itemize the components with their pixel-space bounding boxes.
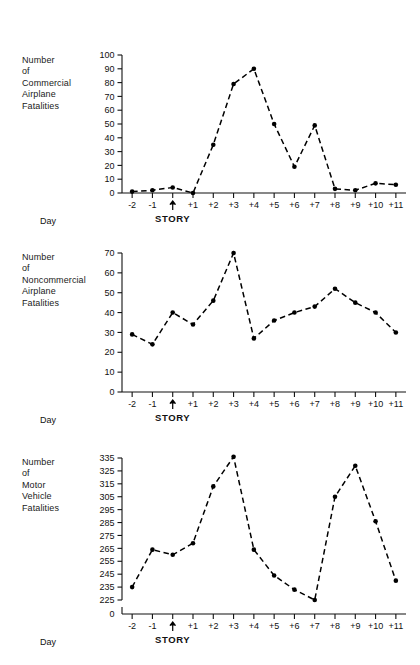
data-point-marker <box>312 123 317 128</box>
x-tick-label: -1 <box>148 621 156 631</box>
data-point-marker <box>231 251 236 256</box>
x-tick-label: +1 <box>188 200 198 210</box>
x-tick-label: +5 <box>269 399 279 409</box>
y-tick-label: 325 <box>99 466 114 476</box>
x-tick-label: +9 <box>350 399 360 409</box>
x-tick-label: +3 <box>228 200 238 210</box>
x-tick-label: +8 <box>330 399 340 409</box>
data-point-marker <box>191 191 196 196</box>
y-tick-label: 70 <box>104 92 114 102</box>
data-point-marker <box>292 164 297 169</box>
x-tick-label: +2 <box>208 200 218 210</box>
y-tick-label: 70 <box>104 248 114 258</box>
data-point-marker <box>272 122 277 127</box>
x-tick-label: +1 <box>188 621 198 631</box>
y-tick-label: 255 <box>99 556 114 566</box>
x-tick-label: +11 <box>389 399 404 409</box>
x-tick-label: -1 <box>148 200 156 210</box>
data-point-marker <box>272 318 277 323</box>
y-tick-label: 285 <box>99 518 114 528</box>
data-point-marker <box>333 286 338 291</box>
up-arrow-icon <box>170 622 176 631</box>
data-point-marker <box>150 342 155 347</box>
y-tick-label: 245 <box>99 569 114 579</box>
y-tick-label: 30 <box>104 328 114 338</box>
data-point-marker <box>292 587 297 592</box>
data-point-marker <box>211 298 216 303</box>
x-tick-label: +6 <box>289 621 299 631</box>
x-tick-label: -1 <box>148 399 156 409</box>
y-tick-label: 90 <box>104 64 114 74</box>
data-point-marker <box>252 67 257 72</box>
data-point-marker <box>353 463 358 468</box>
data-point-marker <box>394 578 399 583</box>
up-arrow-icon <box>170 400 176 409</box>
x-tick-label: +7 <box>310 200 320 210</box>
data-point-marker <box>231 454 236 459</box>
x-tick-label: +9 <box>350 621 360 631</box>
y-tick-label: 235 <box>99 582 114 592</box>
data-point-marker <box>191 541 196 546</box>
y-tick-label: 315 <box>99 479 114 489</box>
data-series-line <box>132 69 396 193</box>
data-point-marker <box>333 494 338 499</box>
data-point-marker <box>272 573 277 578</box>
data-point-marker <box>373 310 378 315</box>
x-tick-label: +7 <box>310 399 320 409</box>
chart-panel-motor-vehicle: Number of Motor Vehicle Fatalities 22523… <box>0 440 420 665</box>
x-axis-title: Day <box>40 415 57 425</box>
x-tick-label: +10 <box>368 621 383 631</box>
y-tick-label: 10 <box>104 174 114 184</box>
story-marker-label: STORY <box>155 412 190 423</box>
x-tick-label: +2 <box>208 621 218 631</box>
chart-panel-commercial: Number of Commercial Airplane Fatalities… <box>0 0 420 235</box>
x-tick-label: +3 <box>228 399 238 409</box>
x-tick-label: +4 <box>249 200 259 210</box>
story-marker-label: STORY <box>155 634 190 645</box>
data-point-marker <box>252 547 257 552</box>
x-tick-label: -2 <box>128 399 136 409</box>
data-point-marker <box>211 142 216 147</box>
y-tick-label: 20 <box>104 161 114 171</box>
x-tick-label: -2 <box>128 200 136 210</box>
data-series-line <box>132 253 396 344</box>
y-tick-label: 305 <box>99 492 114 502</box>
data-point-marker <box>170 553 175 558</box>
chart-panel-noncommercial: Number of Noncommercial Airplane Fatalit… <box>0 235 420 440</box>
x-tick-label: +4 <box>249 621 259 631</box>
y-tick-label: 335 <box>99 453 114 463</box>
y-tick-label: 50 <box>104 119 114 129</box>
y-tick-label: 265 <box>99 544 114 554</box>
x-axis-title: Day <box>40 216 57 226</box>
x-tick-label: +6 <box>289 200 299 210</box>
x-tick-label: +2 <box>208 399 218 409</box>
x-tick-label: +11 <box>389 200 404 210</box>
x-tick-label: +7 <box>310 621 320 631</box>
y-tick-label: 0 <box>109 387 114 397</box>
data-point-marker <box>373 519 378 524</box>
x-tick-label: +1 <box>188 399 198 409</box>
y-tick-label: 100 <box>99 50 114 60</box>
data-point-marker <box>211 484 216 489</box>
data-point-marker <box>252 336 257 341</box>
x-tick-label: +5 <box>269 621 279 631</box>
data-point-marker <box>292 310 297 315</box>
data-point-marker <box>130 189 135 194</box>
x-axis-title: Day <box>40 637 57 647</box>
x-tick-label: +4 <box>249 399 259 409</box>
data-point-marker <box>312 598 317 603</box>
x-tick-label: +10 <box>368 399 383 409</box>
data-point-marker <box>394 330 399 335</box>
y-tick-label: 275 <box>99 531 114 541</box>
y-tick-label: 60 <box>104 268 114 278</box>
data-point-marker <box>394 182 399 187</box>
data-point-marker <box>353 300 358 305</box>
up-arrow-icon <box>170 201 176 210</box>
y-tick-label: 295 <box>99 505 114 515</box>
x-tick-label: +5 <box>269 200 279 210</box>
y-tick-label: 0 <box>109 188 114 198</box>
data-point-marker <box>170 185 175 190</box>
data-point-marker <box>333 187 338 192</box>
y-tick-label: 20 <box>104 347 114 357</box>
x-tick-label: +8 <box>330 621 340 631</box>
